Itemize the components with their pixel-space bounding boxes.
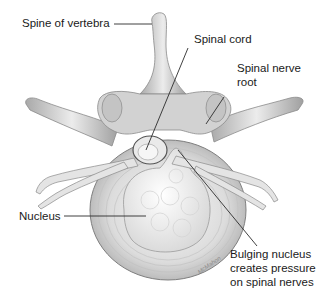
label-bulging-line2: creates pressure [230, 262, 316, 275]
label-bulging-line1: Bulging nucleus [230, 248, 311, 261]
anatomy-figure: Spine of vertebra Spinal cord Spinal ner… [0, 0, 331, 304]
label-spine-of-vertebra: Spine of vertebra [22, 17, 110, 30]
spine-of-vertebra-shape [140, 13, 186, 94]
label-spinal-nerve-root-line2: root [237, 76, 257, 89]
label-spinal-nerve-root-line1: Spinal nerve [237, 62, 301, 75]
label-bulging-line3: on spinal nerves [230, 276, 314, 289]
label-nucleus: Nucleus [19, 210, 61, 223]
lamina [98, 91, 231, 134]
label-spinal-cord: Spinal cord [194, 33, 252, 46]
